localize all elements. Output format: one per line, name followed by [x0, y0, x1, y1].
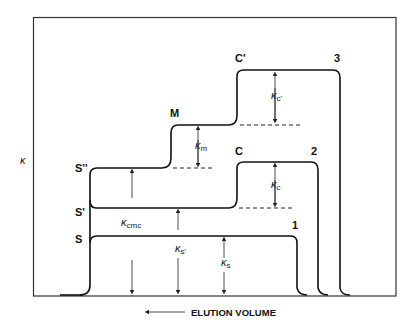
label-s-double-prime: S'' — [75, 162, 88, 174]
label-s-prime: S' — [75, 206, 85, 218]
curve-1 — [90, 236, 307, 295]
curve-label-3: 3 — [334, 52, 340, 64]
curve-3 — [80, 70, 350, 295]
label-kappa-cmc: κcmc — [121, 216, 141, 230]
label-c-prime: C' — [235, 52, 246, 64]
label-kappa-m: κm — [195, 139, 208, 153]
x-axis-label: ELUTION VOLUME — [191, 307, 276, 318]
label-kappa-s: κs — [221, 256, 231, 270]
label-s: S — [75, 233, 82, 245]
label-kappa-c-prime: κc' — [271, 89, 283, 103]
y-axis-label: κ — [20, 154, 26, 166]
curve-label-2: 2 — [311, 145, 317, 157]
elution-diagram: S'' S' S M C C' 3 2 1 κcmc κs' κs κm κc … — [0, 0, 416, 332]
label-kappa-s-prime: κs' — [175, 242, 187, 256]
label-c: C — [235, 145, 243, 157]
label-m: M — [170, 107, 179, 119]
curve-label-1: 1 — [292, 219, 298, 231]
plot-frame — [34, 18, 397, 297]
label-kappa-c: κc — [271, 178, 281, 192]
